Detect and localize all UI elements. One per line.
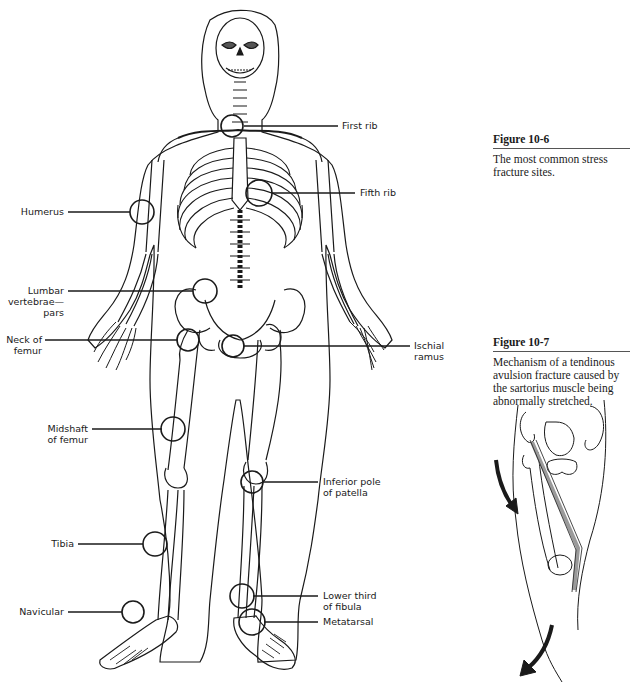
- figure-10-6-illustration: First rib Fifth rib Humerus Lumbar verte…: [0, 0, 480, 683]
- figure-title: Figure 10-7: [493, 336, 630, 352]
- label-tibia: Tibia: [30, 538, 74, 549]
- site-fibula: [230, 584, 254, 608]
- site-humerus: [130, 200, 154, 224]
- sartorius-avulsion-illustration: [490, 400, 630, 683]
- label-lumbar-vertebrae: Lumbar vertebrae— pars: [4, 285, 64, 318]
- label-humerus: Humerus: [16, 206, 64, 217]
- label-fifth-rib: Fifth rib: [360, 187, 396, 198]
- label-inferior-pole-patella: Inferior pole of patella: [323, 476, 381, 498]
- label-neck-of-femur: Neck of femur: [0, 334, 42, 356]
- site-lumbar: [193, 279, 217, 303]
- label-midshaft-femur: Midshaft of femur: [30, 423, 88, 445]
- figure-10-6-caption: Figure 10-6 The most common stress fract…: [493, 133, 630, 179]
- figure-caption-text: The most common stress fracture sites.: [493, 153, 630, 179]
- site-navicular: [122, 601, 144, 623]
- site-neck-femur: [177, 329, 199, 351]
- label-first-rib: First rib: [342, 120, 378, 131]
- figure-10-7-caption: Figure 10-7 Mechanism of a tendinous avu…: [493, 336, 630, 408]
- site-fifth-rib: [246, 180, 272, 206]
- label-metatarsal: Metatarsal: [323, 616, 373, 627]
- figure-title: Figure 10-6: [493, 133, 630, 149]
- skeleton-illustration: [0, 0, 480, 683]
- label-navicular: Navicular: [4, 606, 64, 617]
- label-lower-third-fibula: Lower third of fibula: [323, 590, 377, 612]
- site-first-rib: [221, 115, 243, 137]
- site-patella: [241, 471, 263, 493]
- label-ischial-ramus: Ischial ramus: [414, 340, 444, 362]
